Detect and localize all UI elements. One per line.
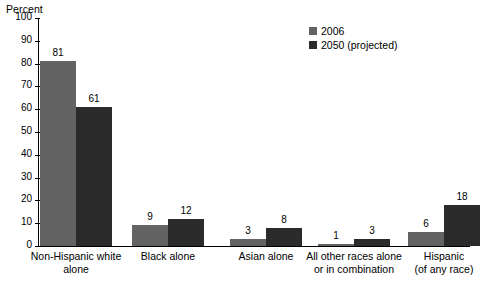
x-axis-category-labels: Non-Hispanic white aloneBlack aloneAsian… — [40, 250, 470, 284]
y-tick-label: 20 — [21, 193, 32, 205]
y-tick-label: 30 — [21, 171, 32, 183]
bar[interactable]: 12 — [168, 219, 204, 246]
bar[interactable]: 9 — [132, 225, 168, 246]
bar-value-label: 1 — [333, 230, 339, 242]
bar[interactable]: 1 — [318, 244, 354, 246]
legend: 2006 2050 (projected) — [309, 25, 397, 53]
bar[interactable]: 6 — [408, 232, 444, 246]
bar-value-label: 18 — [456, 191, 467, 203]
y-tick-mark — [35, 246, 40, 247]
legend-label-2050: 2050 (projected) — [321, 39, 397, 51]
bar[interactable]: 61 — [76, 107, 112, 246]
bar-group: 618 — [408, 18, 480, 246]
bar-value-label: 61 — [88, 93, 99, 105]
y-tick-label: 60 — [21, 102, 32, 114]
bar-value-label: 3 — [369, 225, 375, 237]
bar[interactable]: 18 — [444, 205, 480, 246]
bar-group: 912 — [132, 18, 204, 246]
legend-label-2006: 2006 — [321, 25, 344, 37]
legend-item-2050[interactable]: 2050 (projected) — [309, 39, 397, 51]
y-tick-label: 40 — [21, 148, 32, 160]
bar-value-label: 3 — [245, 225, 251, 237]
bar-groups: 81619123813618 — [40, 18, 470, 246]
x-axis-line — [38, 246, 470, 247]
bar[interactable]: 3 — [230, 239, 266, 246]
bar[interactable]: 3 — [354, 239, 390, 246]
plot-area: 0102030405060708090100 81619123813618 — [40, 18, 470, 246]
category-label: Hispanic (of any race) — [378, 250, 484, 275]
y-tick-label: 80 — [21, 57, 32, 69]
bar-value-label: 9 — [147, 211, 153, 223]
y-tick-label: 50 — [21, 125, 32, 137]
y-tick-label: 10 — [21, 216, 32, 228]
legend-swatch-2050 — [309, 41, 317, 49]
bar[interactable]: 81 — [40, 61, 76, 246]
legend-item-2006[interactable]: 2006 — [309, 25, 397, 37]
bar-value-label: 8 — [281, 214, 287, 226]
bar-value-label: 81 — [52, 47, 63, 59]
bar[interactable]: 8 — [266, 228, 302, 246]
y-tick-label: 90 — [21, 34, 32, 46]
y-tick-label: 70 — [21, 79, 32, 91]
legend-swatch-2006 — [309, 27, 317, 35]
y-tick-label: 100 — [15, 11, 32, 23]
bar-value-label: 6 — [423, 218, 429, 230]
bar-group: 8161 — [40, 18, 112, 246]
bar-group: 38 — [230, 18, 302, 246]
bar-value-label: 12 — [180, 205, 191, 217]
